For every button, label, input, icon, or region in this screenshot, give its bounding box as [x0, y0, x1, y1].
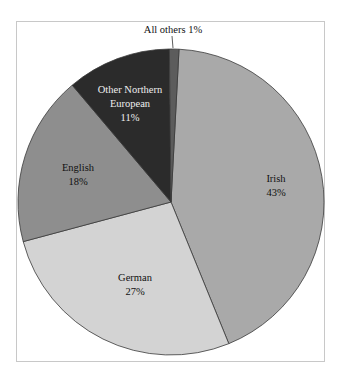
- label-english-pct: 18%: [68, 176, 88, 187]
- label-other-ne-line2: European: [110, 98, 151, 109]
- pie-chart: Irish 43% German 27% English 18% Other N…: [0, 0, 340, 373]
- all-others-leader-line: [172, 36, 173, 48]
- label-irish-name: Irish: [266, 173, 286, 184]
- label-other-ne-line1: Other Northern: [98, 84, 163, 95]
- label-german-pct: 27%: [125, 286, 145, 297]
- label-irish-pct: 43%: [266, 187, 286, 198]
- label-german-name: German: [118, 272, 153, 283]
- label-all-others: All others 1%: [144, 24, 203, 35]
- label-english-name: English: [62, 162, 95, 173]
- label-other-ne-pct: 11%: [121, 112, 140, 123]
